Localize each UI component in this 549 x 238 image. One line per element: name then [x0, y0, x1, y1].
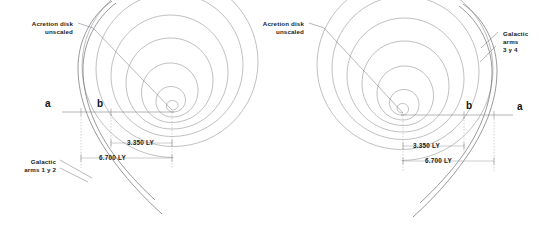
right-point-b-label: b [466, 100, 472, 111]
galaxy-diagram-svg: Acretion disk unscaled Galactic arms 1 y… [0, 0, 549, 238]
left-arms-label-line2: arms 1 y 2 [24, 166, 56, 173]
left-spiral-ring-5 [96, 0, 243, 147]
left-spiral-ring-6 [82, 0, 258, 158]
right-spiral-ring-4 [347, 18, 464, 140]
right-arms-leader-1 [481, 32, 498, 48]
left-dim-outer-label: 6.700 LY [99, 154, 126, 161]
right-dim-outer-label: 6.700 LY [425, 157, 452, 164]
left-arms-leader-1 [60, 160, 92, 178]
left-spiral-ring-4 [111, 15, 228, 137]
left-point-b-label: b [97, 98, 103, 109]
right-spiral-ring-6 [317, 0, 493, 161]
left-arms-label-line1: Galactic [31, 158, 57, 165]
left-spiral-ring-3 [126, 38, 213, 129]
right-arms-label-line3: 3 y 4 [503, 46, 518, 53]
right-spiral-ring-2 [377, 66, 434, 126]
diagram-canvas: Acretion disk unscaled Galactic arms 1 y… [0, 0, 549, 238]
left-accretion-label-line1: Acretion disk [32, 20, 74, 27]
right-spiral-rings [317, 0, 493, 161]
right-accretion-label-line1: Acretion disk [263, 20, 305, 27]
right-arm-4 [420, 6, 492, 203]
left-spiral-ring-1 [156, 87, 186, 118]
right-arms-label-line2: arms [503, 38, 519, 45]
right-spiral-ring-3 [362, 41, 449, 132]
left-spiral-rings [82, 0, 258, 158]
left-arm-2 [83, 3, 155, 200]
left-galaxy-group: Acretion disk unscaled Galactic arms 1 y… [24, 0, 258, 214]
left-accretion-label-line2: unscaled [45, 28, 73, 35]
right-dim-inner-label: 3.350 LY [413, 142, 440, 149]
left-accretion-leader [93, 28, 172, 110]
right-galaxy-group: Acretion disk unscaled Galactic arms 3 y… [263, 0, 529, 217]
right-spiral-ring-0 [397, 104, 409, 116]
right-accretion-leader-tail [309, 23, 324, 28]
right-accretion-label-line2: unscaled [276, 28, 304, 35]
right-point-a-label: a [517, 101, 523, 112]
left-spiral-ring-2 [142, 63, 199, 123]
left-arms-leader-2 [60, 168, 88, 182]
left-dim-inner-label: 3.350 LY [127, 139, 154, 146]
right-spiral-ring-1 [390, 90, 420, 121]
left-point-a-label: a [45, 98, 51, 109]
right-arms-label-line1: Galactic [503, 30, 529, 37]
right-spiral-ring-5 [332, 0, 479, 150]
right-accretion-leader [324, 28, 403, 113]
right-arms-leader-2 [480, 46, 496, 62]
